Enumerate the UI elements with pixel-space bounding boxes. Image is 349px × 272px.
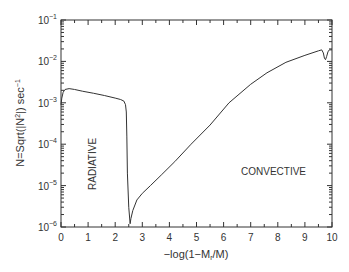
convective-region-label: CONVECTIVE	[241, 166, 306, 177]
y-tick-label: 10−1	[38, 13, 57, 26]
x-tick-label: 8	[275, 232, 281, 243]
x-tick-label: 5	[194, 232, 200, 243]
x-tick-label: 9	[302, 232, 308, 243]
x-tick-label: 3	[140, 232, 146, 243]
x-tick-label: 6	[221, 232, 227, 243]
series-layer	[61, 50, 332, 224]
x-tick-label: 7	[248, 232, 254, 243]
data-series-line	[61, 50, 332, 224]
x-tick-label: 1	[85, 232, 91, 243]
y-tick-label: 10−4	[38, 137, 57, 150]
y-axis-title: N=Sqrt(|N2|) sec−1	[14, 79, 26, 167]
y-tick-label: 10−5	[38, 179, 57, 192]
y-tick-label: 10−3	[38, 96, 57, 109]
x-axis-title: −log(1−Mr/M)	[164, 248, 229, 261]
radiative-region-label: RADIATIVE	[87, 138, 98, 190]
plot-frame	[61, 20, 332, 227]
x-axis-ticks	[61, 20, 332, 227]
x-tick-label: 10	[326, 232, 338, 243]
x-tick-label: 2	[112, 232, 118, 243]
x-axis-tick-labels: 012345678910	[58, 232, 338, 243]
x-tick-label: 4	[167, 232, 173, 243]
chart-canvas: 012345678910 10−110−210−310−410−510−6 −l…	[0, 0, 349, 272]
y-tick-label: 10−6	[38, 220, 57, 233]
y-tick-label: 10−2	[38, 54, 57, 67]
y-axis-ticks	[61, 20, 332, 227]
y-axis-tick-labels: 10−110−210−310−410−510−6	[38, 13, 57, 233]
x-tick-label: 0	[58, 232, 64, 243]
